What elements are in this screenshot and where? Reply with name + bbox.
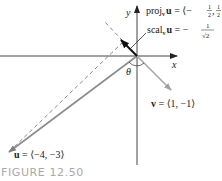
scal-frac-den: √2 xyxy=(202,32,210,40)
proj-frac2-den: 2 xyxy=(217,12,220,18)
figure-caption: FIGURE 12.50 xyxy=(1,166,84,179)
proj-label: projvu = ⟨− xyxy=(146,5,192,17)
y-axis-label: y xyxy=(125,7,131,18)
vector-projection-diagram: y x θ projvu = ⟨− 1 2 , 1 2 scalvu = − 1… xyxy=(0,0,222,181)
v-vector xyxy=(137,56,171,90)
u-vector xyxy=(9,56,137,152)
projection-vector xyxy=(121,40,137,56)
proj-frac1-den: 2 xyxy=(208,12,211,18)
scal-label: scalvu = − xyxy=(147,24,189,36)
scal-pointer-line xyxy=(130,33,146,49)
proj-frac2-num: 1 xyxy=(217,4,220,10)
theta-label: θ xyxy=(126,66,131,77)
perpendicular-dashed-line xyxy=(10,42,123,151)
v-vector-label: v = ⟨1, −1⟩ xyxy=(151,98,195,109)
proj-sep: , xyxy=(212,5,215,16)
proj-frac1-num: 1 xyxy=(208,4,211,10)
scal-frac-num: 1 xyxy=(206,22,210,30)
x-axis-label: x xyxy=(171,59,177,70)
u-vector-label: u = ⟨−4, −3⟩ xyxy=(14,149,64,160)
